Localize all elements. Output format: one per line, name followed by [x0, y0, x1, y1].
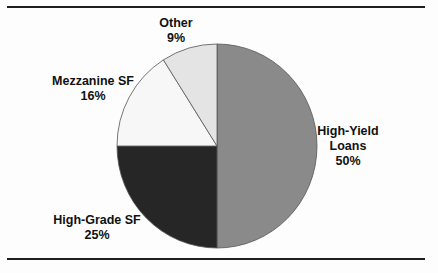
- label-mezzanine: Mezzanine SF 16%: [52, 74, 134, 104]
- label-high-grade-name: High-Grade SF: [53, 213, 141, 228]
- label-other-pct: 9%: [159, 31, 192, 46]
- label-other: Other 9%: [159, 16, 192, 46]
- pie-slices: [117, 44, 317, 248]
- label-mezzanine-pct: 16%: [52, 89, 134, 104]
- label-high-yield: High-Yield Loans 50%: [317, 124, 378, 169]
- label-mezzanine-name: Mezzanine SF: [52, 74, 134, 89]
- label-high-yield-pct: 50%: [317, 154, 378, 169]
- label-other-name: Other: [159, 16, 192, 31]
- label-high-yield-name1: High-Yield: [317, 124, 378, 139]
- label-high-grade-pct: 25%: [53, 228, 141, 243]
- label-high-yield-name2: Loans: [317, 139, 378, 154]
- pie-slice-high-yield-loans: [217, 44, 317, 248]
- label-high-grade: High-Grade SF 25%: [53, 213, 141, 243]
